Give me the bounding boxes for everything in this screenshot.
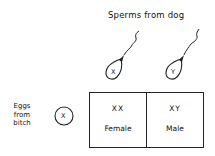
punnett-square: XX Female XY Male [89, 92, 204, 148]
offspring-cell-male: XY Male [146, 93, 203, 147]
offspring-cell-female: XX Female [90, 93, 146, 147]
genotype: XY [147, 104, 203, 113]
genotype: XX [90, 104, 146, 113]
sperm-x-label: X [111, 68, 115, 76]
egg-label: X [61, 112, 65, 120]
sex-label: Male [147, 124, 203, 133]
sperm-y-label: Y [171, 68, 175, 76]
sex-label: Female [90, 124, 146, 133]
